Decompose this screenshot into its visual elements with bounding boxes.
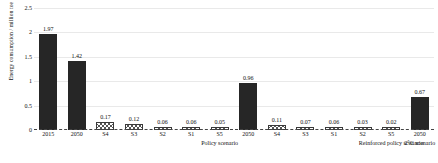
bar-value-label: 0.96 xyxy=(243,75,254,81)
bar xyxy=(39,34,57,130)
x-axis: 20152050S4S3S2S1S52050S4S3S1S2S52050Poli… xyxy=(34,131,434,163)
bar-slot: 0.12 xyxy=(120,8,149,130)
bar-value-label: 0.12 xyxy=(129,116,140,122)
bar-slot: 0.05 xyxy=(205,8,234,130)
baseline-axis xyxy=(34,129,434,130)
bar-slot: 1.42 xyxy=(63,8,92,130)
bar-value-label: 0.17 xyxy=(100,114,111,120)
x-axis-group-label: Policy scenario xyxy=(160,140,280,147)
bar-slot: 0.02 xyxy=(377,8,406,130)
y-tick-label: 2 xyxy=(10,29,32,35)
y-tick-label: 2.5 xyxy=(10,5,32,11)
bar xyxy=(68,61,86,130)
bar-slot: 0.06 xyxy=(148,8,177,130)
plot-area: 1.971.420.170.120.060.060.050.960.110.07… xyxy=(34,8,434,130)
y-tick-label: 0 xyxy=(10,127,32,133)
bar-slot: 0.17 xyxy=(91,8,120,130)
bar-value-label: 0.05 xyxy=(214,119,225,125)
bar-slot: 0.06 xyxy=(177,8,206,130)
bar xyxy=(411,97,429,130)
bar xyxy=(239,83,257,130)
y-tick-label: 1 xyxy=(10,78,32,84)
bar-slot: 0.03 xyxy=(348,8,377,130)
bar-slot: 1.97 xyxy=(34,8,63,130)
bar-value-label: 0.03 xyxy=(357,119,368,125)
bar-value-label: 0.02 xyxy=(386,119,397,125)
bar-slot: 0.11 xyxy=(263,8,292,130)
bar-value-label: 0.07 xyxy=(300,119,311,125)
x-tick-label: 2050 xyxy=(403,131,437,138)
bar-value-label: 0.67 xyxy=(414,89,425,95)
bar-value-label: 0.06 xyxy=(186,119,197,125)
y-tick-label: 0.5 xyxy=(10,103,32,109)
bar-value-label: 1.97 xyxy=(43,26,54,32)
x-axis-group-label: 2°C scenario xyxy=(360,140,438,147)
bar-value-label: 0.11 xyxy=(272,117,282,123)
bar-chart: Energy consumption / million toe 00.511.… xyxy=(0,0,438,163)
bar-slot: 0.06 xyxy=(320,8,349,130)
bar-value-label: 0.06 xyxy=(157,119,168,125)
y-axis-ticks: 00.511.522.5 xyxy=(8,0,32,163)
bar-slot: 0.67 xyxy=(405,8,434,130)
bar-slot: 0.07 xyxy=(291,8,320,130)
bar-value-label: 1.42 xyxy=(72,53,83,59)
bar-value-label: 0.06 xyxy=(329,119,340,125)
y-tick-label: 1.5 xyxy=(10,54,32,60)
bar-slot: 0.96 xyxy=(234,8,263,130)
